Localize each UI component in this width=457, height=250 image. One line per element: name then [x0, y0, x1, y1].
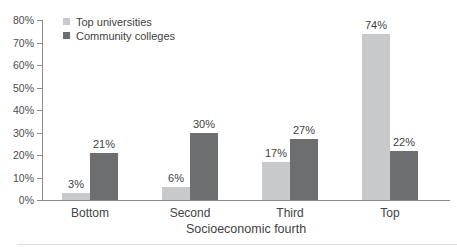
y-axis-tick-40	[37, 110, 42, 111]
y-axis-label-70: 70%	[0, 37, 34, 49]
y-axis-tick-0	[37, 200, 42, 201]
plot-area: 3%21%Bottom6%30%Second17%27%Third74%22%T…	[42, 20, 450, 200]
y-axis-label-0: 0%	[0, 194, 34, 206]
x-axis-category-second: Second	[140, 206, 240, 220]
y-axis-tick-20	[37, 155, 42, 156]
bar-community-colleges-bottom	[90, 153, 118, 200]
x-axis-category-top: Top	[340, 206, 440, 220]
y-axis-tick-30	[37, 133, 42, 134]
bar-community-colleges-third	[290, 139, 318, 200]
bar-top-universities-top	[362, 34, 390, 201]
value-label-top-universities-top: 74%	[354, 19, 398, 31]
bar-community-colleges-second	[190, 133, 218, 201]
y-axis-tick-10	[37, 178, 42, 179]
x-axis-category-bottom: Bottom	[40, 206, 140, 220]
y-axis-label-50: 50%	[0, 82, 34, 94]
y-axis-tick-60	[37, 65, 42, 66]
value-label-community-colleges-third: 27%	[282, 124, 326, 136]
y-axis-tick-50	[37, 88, 42, 89]
value-label-community-colleges-top: 22%	[382, 136, 426, 148]
x-axis-category-third: Third	[240, 206, 340, 220]
value-label-community-colleges-second: 30%	[182, 118, 226, 130]
x-axis-title: Socioeconomic fourth	[42, 222, 450, 236]
y-axis-tick-70	[37, 43, 42, 44]
bar-chart-figure: Top universities Community colleges 3%21…	[0, 0, 457, 250]
y-axis-label-60: 60%	[0, 59, 34, 71]
value-label-community-colleges-bottom: 21%	[82, 138, 126, 150]
y-axis-label-20: 20%	[0, 149, 34, 161]
bar-top-universities-third	[262, 162, 290, 200]
y-axis-label-80: 80%	[0, 14, 34, 26]
bar-top-universities-bottom	[62, 193, 90, 200]
x-axis-line	[42, 200, 450, 201]
bar-community-colleges-top	[390, 151, 418, 201]
bottom-divider-line	[18, 244, 457, 245]
y-axis-label-10: 10%	[0, 172, 34, 184]
y-axis-tick-80	[37, 20, 42, 21]
y-axis-label-40: 40%	[0, 104, 34, 116]
bar-top-universities-second	[162, 187, 190, 201]
y-axis-label-30: 30%	[0, 127, 34, 139]
